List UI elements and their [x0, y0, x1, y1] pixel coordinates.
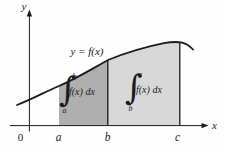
calculus-area-figure: x y 0 a b c y = f(x) ∫ b a f(x) dx ∫ c b… — [0, 0, 226, 148]
tick-label-c: c — [175, 131, 180, 143]
integral-lower-limit: a — [63, 106, 67, 115]
integrand: f(x) dx — [136, 84, 162, 96]
tick-label-a: a — [56, 131, 62, 143]
x-axis-arrowhead-icon — [202, 123, 209, 128]
integral-upper-limit: c — [139, 70, 143, 79]
integrand: f(x) dx — [69, 86, 95, 98]
origin-label: 0 — [18, 131, 24, 143]
y-axis-arrowhead-icon — [27, 10, 32, 17]
integral-lower-limit: b — [129, 104, 133, 113]
integral-upper-limit: b — [73, 72, 77, 81]
tick-label-b: b — [105, 131, 111, 143]
figure-canvas: x y 0 a b c y = f(x) ∫ b a f(x) dx ∫ c b… — [0, 0, 226, 148]
x-axis-label: x — [211, 119, 217, 131]
y-axis-label: y — [21, 0, 27, 12]
curve-equation-label: y = f(x) — [69, 45, 103, 58]
